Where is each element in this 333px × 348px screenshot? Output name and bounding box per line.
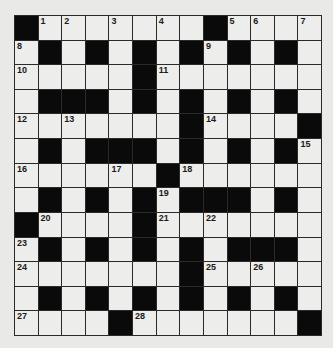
crossword-cell[interactable] <box>180 213 203 237</box>
crossword-cell[interactable] <box>133 16 156 40</box>
crossword-cell[interactable]: 9 <box>204 41 227 65</box>
crossword-cell[interactable] <box>180 311 203 335</box>
crossword-cell[interactable] <box>204 287 227 311</box>
crossword-cell[interactable] <box>228 164 251 188</box>
crossword-cell[interactable] <box>62 213 85 237</box>
crossword-cell[interactable]: 15 <box>298 139 321 163</box>
crossword-cell[interactable] <box>251 90 274 114</box>
crossword-cell[interactable] <box>251 114 274 138</box>
crossword-cell[interactable] <box>298 90 321 114</box>
crossword-cell[interactable] <box>39 164 62 188</box>
crossword-cell[interactable] <box>133 164 156 188</box>
crossword-cell[interactable] <box>275 311 298 335</box>
crossword-cell[interactable] <box>157 287 180 311</box>
crossword-cell[interactable] <box>275 164 298 188</box>
crossword-cell[interactable]: 20 <box>39 213 62 237</box>
crossword-cell[interactable] <box>298 262 321 286</box>
crossword-cell[interactable] <box>157 90 180 114</box>
crossword-cell[interactable]: 17 <box>109 164 132 188</box>
crossword-cell[interactable] <box>157 238 180 262</box>
crossword-cell[interactable] <box>251 164 274 188</box>
crossword-cell[interactable] <box>180 65 203 89</box>
crossword-cell[interactable] <box>62 188 85 212</box>
crossword-cell[interactable] <box>228 65 251 89</box>
crossword-cell[interactable] <box>62 139 85 163</box>
crossword-cell[interactable] <box>275 65 298 89</box>
crossword-cell[interactable] <box>62 238 85 262</box>
crossword-cell[interactable]: 22 <box>204 213 227 237</box>
crossword-cell[interactable]: 25 <box>204 262 227 286</box>
crossword-cell[interactable] <box>228 311 251 335</box>
crossword-cell[interactable]: 27 <box>15 311 38 335</box>
crossword-cell[interactable] <box>298 41 321 65</box>
crossword-cell[interactable] <box>86 114 109 138</box>
crossword-cell[interactable] <box>275 262 298 286</box>
crossword-cell[interactable] <box>298 287 321 311</box>
crossword-cell[interactable] <box>86 16 109 40</box>
crossword-cell[interactable] <box>109 65 132 89</box>
crossword-cell[interactable] <box>251 65 274 89</box>
crossword-cell[interactable]: 12 <box>15 114 38 138</box>
crossword-cell[interactable] <box>228 114 251 138</box>
crossword-cell[interactable] <box>15 139 38 163</box>
crossword-cell[interactable]: 23 <box>15 238 38 262</box>
crossword-cell[interactable] <box>298 238 321 262</box>
crossword-cell[interactable]: 14 <box>204 114 227 138</box>
crossword-cell[interactable] <box>15 90 38 114</box>
crossword-cell[interactable] <box>86 164 109 188</box>
crossword-cell[interactable] <box>15 287 38 311</box>
crossword-cell[interactable] <box>275 16 298 40</box>
crossword-cell[interactable] <box>204 311 227 335</box>
crossword-cell[interactable] <box>204 65 227 89</box>
crossword-cell[interactable] <box>204 90 227 114</box>
crossword-cell[interactable] <box>86 65 109 89</box>
crossword-cell[interactable] <box>86 262 109 286</box>
crossword-cell[interactable] <box>109 188 132 212</box>
crossword-cell[interactable] <box>109 90 132 114</box>
crossword-cell[interactable] <box>298 188 321 212</box>
crossword-cell[interactable] <box>62 65 85 89</box>
crossword-cell[interactable] <box>228 213 251 237</box>
crossword-cell[interactable] <box>157 139 180 163</box>
crossword-cell[interactable] <box>157 262 180 286</box>
crossword-cell[interactable] <box>251 188 274 212</box>
crossword-cell[interactable]: 24 <box>15 262 38 286</box>
crossword-cell[interactable] <box>109 41 132 65</box>
crossword-cell[interactable] <box>39 311 62 335</box>
crossword-cell[interactable] <box>62 311 85 335</box>
crossword-cell[interactable] <box>157 311 180 335</box>
crossword-cell[interactable]: 10 <box>15 65 38 89</box>
crossword-cell[interactable]: 11 <box>157 65 180 89</box>
crossword-cell[interactable] <box>109 114 132 138</box>
crossword-cell[interactable] <box>62 262 85 286</box>
crossword-cell[interactable]: 7 <box>298 16 321 40</box>
crossword-cell[interactable] <box>39 114 62 138</box>
crossword-cell[interactable] <box>133 114 156 138</box>
crossword-cell[interactable] <box>251 287 274 311</box>
crossword-cell[interactable] <box>298 213 321 237</box>
crossword-cell[interactable]: 19 <box>157 188 180 212</box>
crossword-cell[interactable] <box>180 16 203 40</box>
crossword-cell[interactable]: 28 <box>133 311 156 335</box>
crossword-cell[interactable]: 5 <box>228 16 251 40</box>
crossword-cell[interactable]: 2 <box>62 16 85 40</box>
crossword-cell[interactable] <box>109 287 132 311</box>
crossword-cell[interactable] <box>157 114 180 138</box>
crossword-cell[interactable] <box>109 238 132 262</box>
crossword-cell[interactable] <box>157 41 180 65</box>
crossword-cell[interactable]: 26 <box>251 262 274 286</box>
crossword-cell[interactable]: 18 <box>180 164 203 188</box>
crossword-cell[interactable] <box>62 41 85 65</box>
crossword-cell[interactable] <box>204 164 227 188</box>
crossword-cell[interactable] <box>298 164 321 188</box>
crossword-cell[interactable]: 21 <box>157 213 180 237</box>
crossword-cell[interactable] <box>275 213 298 237</box>
crossword-cell[interactable] <box>62 164 85 188</box>
crossword-cell[interactable]: 6 <box>251 16 274 40</box>
crossword-cell[interactable] <box>62 287 85 311</box>
crossword-cell[interactable] <box>133 262 156 286</box>
crossword-cell[interactable] <box>109 262 132 286</box>
crossword-cell[interactable] <box>298 65 321 89</box>
crossword-cell[interactable] <box>251 213 274 237</box>
crossword-cell[interactable]: 13 <box>62 114 85 138</box>
